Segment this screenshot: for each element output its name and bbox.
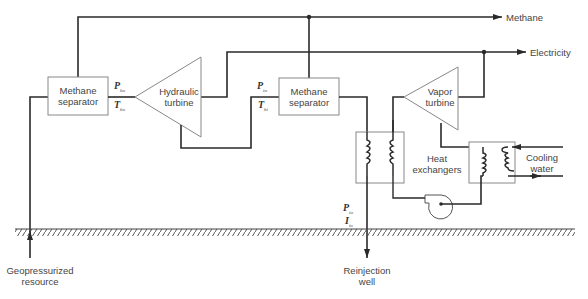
temperature-var-2: Thi xyxy=(258,99,268,112)
cooling-water-label: Cooling water xyxy=(520,152,564,174)
electricity-output-label: Electricity xyxy=(530,47,571,58)
pressure-var-3: Pio xyxy=(343,202,353,215)
pressure-var-1: Pho xyxy=(114,80,125,93)
temperature-var-3: Iio xyxy=(345,215,353,228)
temperature-var-1: Tho xyxy=(114,99,125,112)
reinjection-well-label: Reinjection well xyxy=(337,265,397,287)
electricity-junction-dot xyxy=(482,50,486,54)
heat-exchanger-1 xyxy=(356,132,404,183)
pump-center-dot xyxy=(439,202,443,206)
heat-exchangers-label: Heat exchangers xyxy=(408,153,466,175)
vapor-turbine-label: Vapor turbine xyxy=(418,86,462,108)
geopressurized-resource-label: Geopressurized resource xyxy=(0,265,80,287)
methane-junction-dot xyxy=(307,15,311,19)
hx1-to-vapor-turbine-line xyxy=(393,97,404,132)
electricity-line xyxy=(201,52,526,97)
pump-icon xyxy=(425,195,453,219)
diagram-canvas xyxy=(0,0,588,299)
pressure-var-2: Pio xyxy=(257,80,267,93)
separator-1-label: Methane separator xyxy=(48,85,108,107)
separator-2-label: Methane separator xyxy=(279,86,339,108)
methane-output-label: Methane xyxy=(506,12,543,23)
methane-line xyxy=(78,17,502,78)
hydraulic-turbine-label: Hydraulic turbine xyxy=(154,86,204,108)
ground-surface xyxy=(15,229,575,236)
